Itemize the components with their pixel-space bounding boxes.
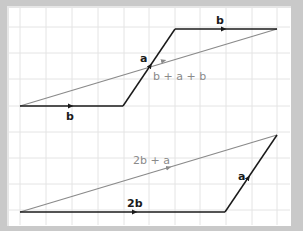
- vector-diagram: b a b b + a + b 2b a 2b + a: [0, 0, 303, 231]
- label-resultant-top: b + a + b: [153, 70, 206, 83]
- label-a-bottom: a: [238, 170, 245, 183]
- label-2b: 2b: [127, 197, 143, 210]
- label-b-lower: b: [66, 110, 74, 123]
- resultant-arrow-icon: [158, 61, 164, 63]
- label-a: a: [140, 52, 147, 65]
- label-b-upper: b: [216, 14, 224, 27]
- label-resultant-bottom: 2b + a: [133, 154, 170, 167]
- vector-a-bottom-line: [225, 135, 277, 212]
- grid-lines: [9, 8, 290, 225]
